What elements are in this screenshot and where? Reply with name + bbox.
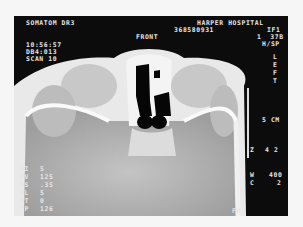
scale-label: 5 CM: [262, 117, 280, 124]
side-letter-f: F: [273, 70, 277, 77]
param-value: 125: [40, 174, 53, 181]
param-key: TI: [20, 166, 29, 173]
front-label: FRONT: [136, 34, 158, 41]
param-key: TP: [20, 206, 29, 213]
param-value: 0: [40, 198, 44, 205]
window-label: W: [250, 172, 254, 179]
param-key: SL: [20, 190, 29, 197]
scan-number: SCAN 10: [26, 56, 57, 63]
param-value: 5: [40, 190, 44, 197]
param-value: .35: [40, 182, 53, 189]
patient-id: 368580931: [174, 27, 214, 34]
scale-ruler: [247, 88, 249, 158]
param-key: GT: [20, 198, 29, 205]
center-value: 2: [277, 180, 281, 187]
side-letter-t: T: [273, 78, 277, 85]
center-label: C: [250, 180, 254, 187]
side-letter-l: L: [273, 54, 277, 61]
param-value: 126: [40, 206, 53, 213]
z-label: Z: [250, 147, 254, 154]
bottom-marker: FH: [232, 208, 241, 215]
window-value: 400: [269, 172, 282, 179]
scanner-model: SOMATOM DR3: [26, 20, 75, 27]
side-letter-e: E: [273, 62, 277, 69]
orientation-code: H/SP: [262, 41, 280, 48]
param-key: AS: [20, 182, 29, 189]
param-value: 5: [40, 166, 44, 173]
z-value: 4 2: [265, 147, 278, 154]
ct-scan-image: SOMATOM DR3 HARPER HOSPITAL 368580931 IF…: [14, 16, 288, 216]
param-key: KV: [20, 174, 29, 181]
